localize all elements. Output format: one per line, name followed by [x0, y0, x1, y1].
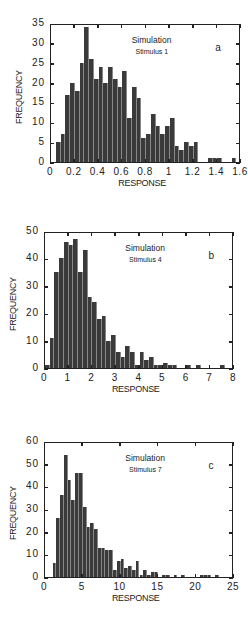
y-tick-mark [44, 464, 48, 466]
histogram-bar [217, 158, 222, 162]
y-tick-mark [229, 487, 233, 489]
histogram-bar [220, 365, 225, 368]
x-tick-mark [162, 365, 164, 369]
x-tick-mark [121, 159, 123, 163]
y-tick-mark [236, 83, 240, 85]
x-tick-mark [168, 24, 170, 28]
y-tick-label: 15 [25, 96, 45, 107]
x-tick-mark [195, 574, 197, 578]
x-tick-label: 0 [29, 581, 59, 592]
x-tick-mark [157, 442, 159, 446]
panel-label: c [208, 460, 213, 471]
y-tick-label: 10 [25, 116, 45, 127]
histogram-bar [187, 365, 192, 368]
y-tick-mark [236, 43, 240, 45]
x-tick-mark [81, 574, 83, 578]
x-tick-mark [195, 442, 197, 446]
x-tick-label: 5 [67, 581, 97, 592]
y-tick-mark [50, 123, 54, 125]
x-tick-mark [81, 442, 83, 446]
histogram-bar [196, 365, 201, 368]
y-tick-mark [50, 83, 54, 85]
y-tick-mark [229, 341, 233, 343]
x-tick-mark [73, 24, 75, 28]
x-tick-mark [233, 574, 235, 578]
x-tick-mark [44, 442, 46, 446]
y-tick-mark [50, 143, 54, 145]
histogram-bar [173, 365, 178, 368]
y-tick-mark [44, 532, 48, 534]
y-tick-label: 40 [19, 480, 39, 491]
y-tick-mark [44, 314, 48, 316]
y-tick-mark [44, 510, 48, 512]
x-tick-mark [216, 159, 218, 163]
y-tick-label: 20 [19, 526, 39, 537]
histogram-bar [232, 158, 237, 162]
x-tick-mark [114, 365, 116, 369]
y-tick-mark [229, 259, 233, 261]
x-tick-mark [44, 574, 46, 578]
x-tick-label: 15 [142, 581, 172, 592]
y-tick-mark [229, 510, 233, 512]
y-tick-mark [44, 555, 48, 557]
y-tick-label: 10 [19, 548, 39, 559]
x-tick-mark [50, 159, 52, 163]
x-tick-label: 8 [218, 372, 248, 383]
y-tick-mark [229, 464, 233, 466]
y-tick-mark [229, 555, 233, 557]
y-tick-mark [44, 259, 48, 261]
y-tick-label: 10 [19, 335, 39, 346]
x-tick-mark [97, 159, 99, 163]
x-tick-label: 1.6 [225, 166, 248, 177]
y-tick-mark [236, 143, 240, 145]
x-tick-mark [138, 365, 140, 369]
x-tick-mark [119, 442, 121, 446]
y-tick-label: 5 [25, 136, 45, 147]
chart-subtitle: Stimulus 7 [129, 466, 162, 473]
x-tick-mark [50, 24, 52, 28]
x-axis-label: RESPONSE [112, 593, 160, 603]
chart-subtitle: Stimulus 1 [136, 48, 169, 55]
x-tick-mark [240, 159, 242, 163]
y-tick-label: 25 [25, 57, 45, 68]
chart-title: Simulation [132, 35, 172, 45]
y-axis-label: FREQUENCY [14, 70, 24, 124]
x-tick-mark [192, 159, 194, 163]
histogram-bar [166, 575, 170, 577]
y-tick-label: 60 [19, 435, 39, 446]
y-axis-label: FREQUENCY [8, 277, 18, 331]
chart-title: Simulation [125, 453, 165, 463]
y-tick-mark [44, 286, 48, 288]
x-tick-mark [138, 232, 140, 236]
x-tick-mark [240, 24, 242, 28]
y-tick-label: 50 [19, 458, 39, 469]
y-tick-mark [229, 286, 233, 288]
x-tick-mark [168, 159, 170, 163]
x-tick-mark [157, 574, 159, 578]
y-tick-label: 50 [19, 225, 39, 236]
x-tick-mark [145, 24, 147, 28]
y-tick-mark [236, 123, 240, 125]
y-tick-mark [229, 532, 233, 534]
y-tick-mark [236, 103, 240, 105]
panel-label: b [208, 250, 214, 261]
histogram-bar [208, 575, 212, 577]
y-tick-label: 30 [19, 503, 39, 514]
y-tick-label: 20 [25, 77, 45, 88]
x-tick-mark [67, 232, 69, 236]
chart-title: Simulation [125, 243, 165, 253]
x-axis-label: RESPONSE [118, 178, 166, 188]
y-tick-mark [44, 341, 48, 343]
x-tick-mark [91, 232, 93, 236]
x-tick-mark [91, 365, 93, 369]
y-tick-label: 20 [19, 307, 39, 318]
y-tick-mark [50, 63, 54, 65]
y-tick-label: 30 [19, 280, 39, 291]
histogram-bar [174, 575, 178, 577]
x-axis-label: RESPONSE [112, 384, 160, 394]
panel-label: a [215, 42, 221, 53]
x-tick-mark [121, 24, 123, 28]
x-tick-label: 25 [218, 581, 248, 592]
x-tick-mark [209, 232, 211, 236]
x-tick-mark [192, 24, 194, 28]
